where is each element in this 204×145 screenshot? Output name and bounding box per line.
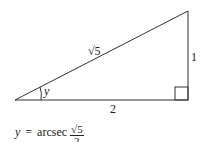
formula-function: arcsec [37, 125, 67, 140]
adjacent-side-label: 2 [110, 103, 116, 115]
triangle [15, 11, 188, 100]
angle-label: y [44, 85, 49, 97]
right-angle-marker [175, 87, 188, 100]
hypotenuse-label: √5 [88, 45, 101, 57]
formula-fraction: √5 2 [70, 123, 84, 142]
opposite-side-label: 1 [191, 51, 197, 63]
formula-denominator: 2 [74, 136, 80, 142]
formula-lhs: y [15, 125, 20, 140]
formula-numerator: √5 [70, 123, 84, 136]
formula-equals: = [25, 125, 32, 140]
angle-arc [40, 87, 41, 100]
formula: y = arcsec √5 2 [15, 123, 84, 142]
